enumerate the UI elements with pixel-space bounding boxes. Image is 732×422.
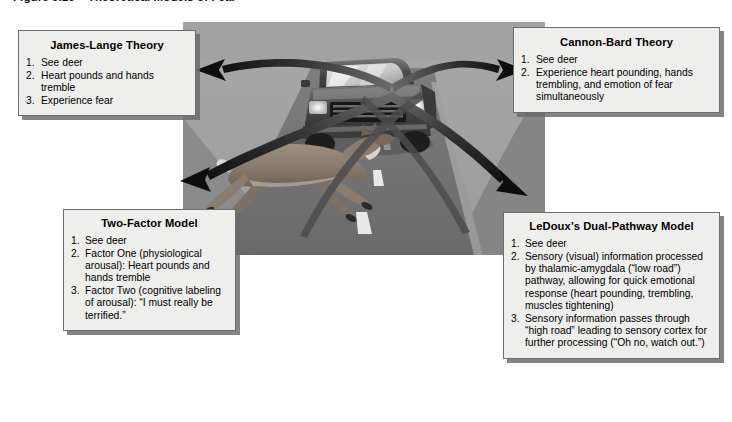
figure-number: Figure 9.10 <box>13 0 75 3</box>
box-james-lange-theory: James-Lange Theory See deer Heart pounds… <box>18 30 196 116</box>
list-item: Sensory (visual) information processed b… <box>511 251 712 312</box>
deer-on-road-photo <box>183 22 545 255</box>
list-item: See deer <box>71 235 228 247</box>
list-item: See deer <box>26 57 188 69</box>
box-title: Cannon-Bard Theory <box>518 36 715 48</box>
figure-caption: Figure 9.10Theoretical Models of Fear <box>13 0 236 3</box>
box-ledoux-dual-pathway-model: LeDoux’s Dual-Pathway Model See deer Sen… <box>503 212 720 359</box>
figure-title: Theoretical Models of Fear <box>88 0 236 3</box>
list-item: Factor Two (cognitive labeling of arousa… <box>71 285 228 322</box>
box-title: James-Lange Theory <box>23 39 191 51</box>
list-item: Sensory information passes through “high… <box>511 313 712 350</box>
list-item: Experience heart pounding, hands trembli… <box>521 67 712 104</box>
box-cannon-bard-theory: Cannon-Bard Theory See deer Experience h… <box>513 27 720 113</box>
list-item: See deer <box>521 54 712 66</box>
box-title: Two-Factor Model <box>68 217 231 229</box>
box-title: LeDoux’s Dual-Pathway Model <box>508 220 715 232</box>
step-list: See deer Heart pounds and hands tremble … <box>26 57 188 107</box>
step-list: See deer Experience heart pounding, hand… <box>521 54 712 104</box>
photo-illustration <box>183 22 545 255</box>
step-list: See deer Factor One (physiological arous… <box>71 235 228 322</box>
step-list: See deer Sensory (visual) information pr… <box>511 238 712 350</box>
list-item: Factor One (physiological arousal): Hear… <box>71 248 228 285</box>
box-two-factor-model: Two-Factor Model See deer Factor One (ph… <box>63 209 236 331</box>
list-item: See deer <box>511 238 712 250</box>
list-item: Experience fear <box>26 95 188 107</box>
list-item: Heart pounds and hands tremble <box>26 70 188 95</box>
